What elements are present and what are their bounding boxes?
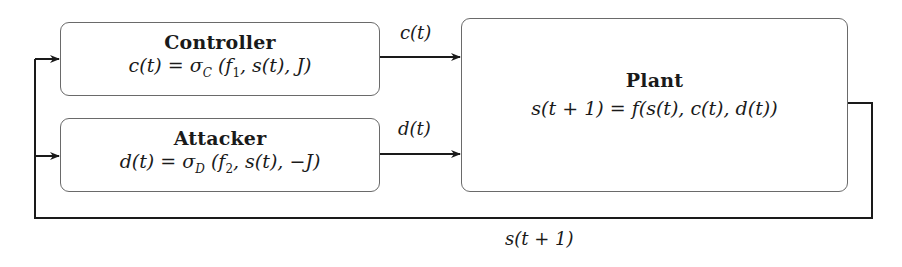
attacker-block: Attacker d(t) = σD (f2, s(t), −J) [60,118,380,192]
controller-title: Controller [61,31,379,53]
edge-label-d: d(t) [398,118,431,139]
edge-label-feedback: s(t + 1) [505,228,574,249]
plant-equation: s(t + 1) = f(s(t), c(t), d(t)) [462,97,847,119]
attacker-title: Attacker [61,127,379,149]
controller-equation: c(t) = σC (f1, s(t), J) [61,54,379,80]
plant-block: Plant s(t + 1) = f(s(t), c(t), d(t)) [461,18,848,192]
plant-title: Plant [462,69,847,91]
edge-label-c: c(t) [400,22,431,43]
controller-block: Controller c(t) = σC (f1, s(t), J) [60,22,380,96]
attacker-equation: d(t) = σD (f2, s(t), −J) [61,150,379,176]
